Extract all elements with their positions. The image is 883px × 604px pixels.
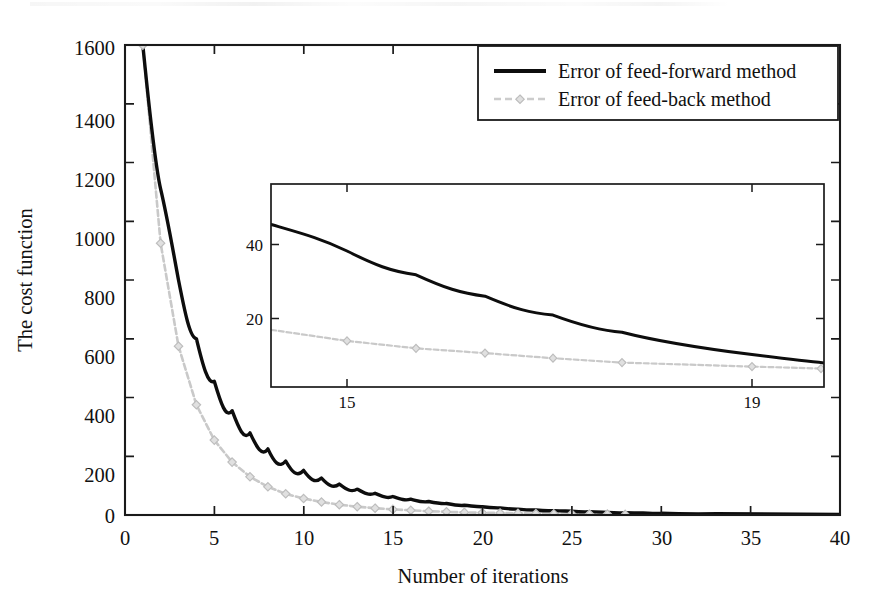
- y-tick-label: 1200: [74, 169, 115, 191]
- y-tick-label: 1600: [74, 37, 115, 59]
- legend[interactable]: Error of feed-forward method Error of fe…: [478, 46, 838, 120]
- y-tick-label: 200: [84, 464, 115, 486]
- y-tick-label: 600: [84, 346, 115, 368]
- x-tick-label: 0: [120, 527, 130, 549]
- inset-background: [271, 184, 824, 387]
- inset-y-tick-label: 40: [246, 236, 263, 255]
- y-axis-title: The cost function: [14, 208, 36, 351]
- inset-axes: 15 19 20 40: [246, 184, 825, 412]
- x-axis-title: Number of iterations: [398, 565, 569, 587]
- x-tick-labels: 0 5 10 15 20 25 30 35 40: [120, 527, 850, 549]
- inset-x-tick-label: 15: [339, 393, 356, 412]
- x-tick-label: 35: [741, 527, 762, 549]
- x-tick-label: 15: [383, 527, 404, 549]
- x-tick-label: 40: [830, 527, 851, 549]
- y-tick-labels: 0 200 400 600 800 1000 1200 1400 1600: [74, 37, 115, 527]
- legend-label: Error of feed-forward method: [558, 60, 796, 82]
- figure-container: 0 200 400 600 800 1000 1200 1400 1600 0 …: [0, 0, 883, 604]
- x-tick-label: 5: [209, 527, 219, 549]
- inset-y-tick-label: 20: [246, 310, 263, 329]
- inset-x-tick-label: 19: [744, 393, 761, 412]
- x-tick-label: 10: [294, 527, 315, 549]
- y-tick-label: 1400: [74, 110, 115, 132]
- y-tick-label: 800: [84, 287, 115, 309]
- chart-svg: 0 200 400 600 800 1000 1200 1400 1600 0 …: [0, 0, 883, 604]
- y-tick-label: 0: [105, 505, 115, 527]
- y-tick-label: 1000: [74, 228, 115, 250]
- x-tick-label: 20: [473, 527, 494, 549]
- x-tick-label: 30: [652, 527, 673, 549]
- y-tick-label: 400: [84, 405, 115, 427]
- legend-label: Error of feed-back method: [558, 88, 771, 110]
- x-tick-label: 25: [562, 527, 583, 549]
